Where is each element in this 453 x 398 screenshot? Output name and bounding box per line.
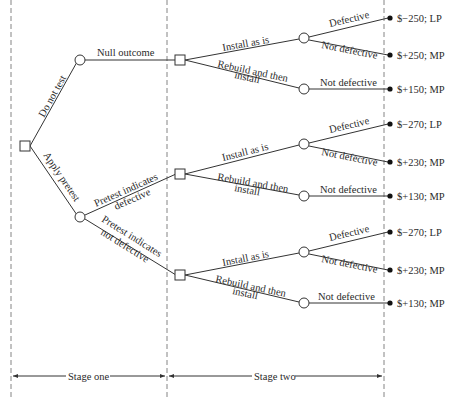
chance-node-g2-rebuild	[299, 191, 309, 201]
label-g1-not-defective: Not defective	[321, 39, 379, 61]
decision-node-g1	[175, 55, 185, 65]
label-g1-defective: Defective	[328, 9, 371, 29]
terminal-dot	[387, 229, 392, 234]
label-g2-not-defective: Not defective	[321, 146, 379, 168]
arrow-right-icon	[160, 374, 165, 378]
terminal-dot	[387, 15, 392, 20]
terminal-dot	[387, 267, 392, 272]
payoff-g2-defective: $−270; LP	[397, 119, 442, 130]
arrow-right-icon	[377, 374, 382, 378]
payoff-g3-rebuild: $+130; MP	[397, 298, 445, 309]
chance-node-apply-pretest	[75, 212, 85, 222]
arrow-left-icon	[13, 374, 18, 378]
chance-node-g1-rebuild	[299, 84, 309, 94]
label-do-not-test: Do not test	[36, 73, 68, 119]
chance-node-g3-install	[299, 247, 309, 257]
payoff-g1-rebuild: $+150; MP	[397, 84, 445, 95]
payoff-g3-defective: $−270; LP	[397, 227, 442, 238]
root-decision-node	[20, 141, 30, 151]
terminal-dot	[387, 86, 392, 91]
label-null-outcome: Null outcome	[97, 47, 155, 58]
payoff-g1-not-defective: $+250; MP	[397, 50, 445, 61]
payoff-g2-not-defective: $+230; MP	[397, 157, 445, 168]
stage-two-label: Stage two	[254, 371, 296, 382]
label-g1-rebuild-not-defective: Not defective	[320, 77, 377, 88]
terminal-dot	[387, 52, 392, 57]
decision-node-g2	[175, 169, 185, 179]
decision-node-g3	[175, 270, 185, 280]
label-g1-install: Install as is	[221, 34, 269, 53]
label-g2-install: Install as is	[221, 141, 270, 163]
terminal-dot	[387, 159, 392, 164]
stage-one-label: Stage one	[68, 371, 109, 382]
terminal-dot	[387, 193, 392, 198]
label-g3-defective: Defective	[328, 223, 371, 243]
label-g2-defective: Defective	[328, 115, 371, 135]
label-apply-pretest: Apply pretest	[41, 150, 82, 203]
chance-node-g3-rebuild	[299, 298, 309, 308]
label-g3-install: Install as is	[221, 248, 269, 268]
decision-tree-diagram: Do not test Apply pretest Null outcome P…	[0, 0, 453, 398]
terminal-dot	[387, 300, 392, 305]
payoff-g3-not-defective: $+230; MP	[397, 265, 445, 276]
label-g3-not-defective: Not defective	[321, 253, 379, 275]
label-g2-rebuild-not-defective: Not defective	[320, 184, 377, 195]
payoff-g1-defective: $−250; LP	[397, 13, 442, 24]
terminal-dot	[387, 121, 392, 126]
label-g3-rebuild-not-defective: Not defective	[318, 291, 375, 302]
arrow-left-icon	[169, 374, 174, 378]
chance-node-g2-install	[299, 139, 309, 149]
chance-node-do-not-test	[75, 55, 85, 65]
payoff-g2-rebuild: $+130; MP	[397, 191, 445, 202]
chance-node-g1-install	[299, 33, 309, 43]
